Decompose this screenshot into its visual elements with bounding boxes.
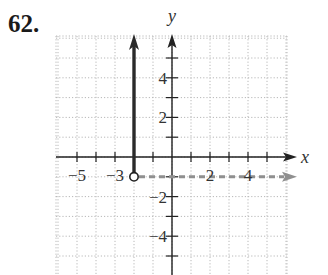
tick-labels: xy−5−32442−2−4 <box>68 6 309 246</box>
y-tick-label: −2 <box>149 188 167 207</box>
x-axis-label: x <box>300 147 309 167</box>
x-tick-label: −3 <box>106 166 124 185</box>
y-tick-label: 4 <box>159 69 168 88</box>
x-tick-label: 4 <box>244 166 253 185</box>
graph-series <box>129 34 297 182</box>
y-tick-label: 2 <box>159 108 168 127</box>
y-axis-label: y <box>166 6 176 26</box>
x-tick-label: 2 <box>206 166 215 185</box>
coordinate-graph: xy−5−32442−2−4 <box>0 0 328 275</box>
x-tick-label: −5 <box>68 166 86 185</box>
axes <box>56 34 297 275</box>
open-circle-endpoint <box>130 173 138 181</box>
y-tick-label: −4 <box>149 227 168 246</box>
